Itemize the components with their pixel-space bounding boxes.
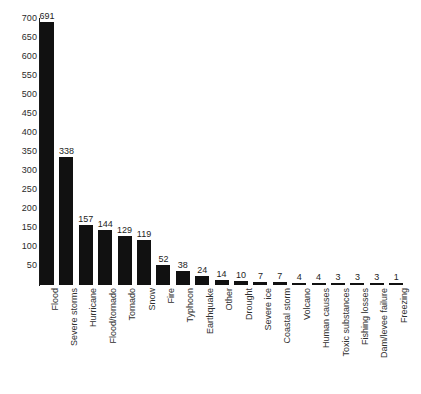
category-label: Snow (148, 288, 157, 311)
category-label: Typhoon (186, 288, 195, 323)
bar-value-label: 338 (59, 146, 74, 156)
category-label: Other (225, 288, 234, 311)
bar-group: 3 (350, 0, 364, 285)
bar-value-label: 1 (394, 272, 399, 282)
category-label: Tornado (128, 288, 137, 321)
bar-group: 129 (118, 0, 132, 285)
bar (156, 265, 170, 285)
bar-value-label: 3 (335, 272, 340, 282)
category-label: Hurricane (89, 288, 98, 327)
plot-area: 5010015020025030035040045050055060065070… (0, 0, 421, 394)
bar-group: 52 (156, 0, 170, 285)
bar-value-label: 24 (197, 265, 207, 275)
category-label-text: Earthquake (206, 288, 215, 334)
bar (350, 283, 364, 285)
category-label-text: Drought (245, 288, 254, 320)
bar-value-label: 3 (374, 272, 379, 282)
bar-value-label: 52 (158, 254, 168, 264)
category-label: Flood (51, 288, 60, 311)
bar (40, 22, 54, 285)
bar (370, 283, 384, 285)
bar (312, 283, 326, 285)
category-label-text: Freezing (400, 288, 409, 323)
bar (273, 282, 287, 285)
category-label-text: Severe storms (70, 288, 79, 346)
bar (176, 271, 190, 285)
bar-group: 157 (79, 0, 93, 285)
bar-value-label: 3 (355, 272, 360, 282)
category-label-text: Dam/levee failure (380, 288, 389, 358)
category-label-text: Volcano (303, 288, 312, 320)
category-label-text: Typhoon (186, 288, 195, 323)
bar-group: 7 (273, 0, 287, 285)
bar (331, 283, 345, 285)
bar-chart: 5010015020025030035040045050055060065070… (0, 0, 421, 394)
bar-value-label: 10 (236, 270, 246, 280)
bar (79, 225, 93, 285)
bar-value-label: 691 (39, 11, 54, 21)
bar (137, 240, 151, 285)
category-label-text: Flood/tornado (109, 288, 118, 344)
bar (59, 157, 73, 285)
category-label: Fishing losses (361, 288, 370, 345)
bar-value-label: 144 (98, 219, 113, 229)
category-label: Severe ice (264, 288, 273, 331)
category-label-text: Human causes (322, 288, 331, 348)
bar-group: 10 (234, 0, 248, 285)
bar-value-label: 129 (117, 225, 132, 235)
bar (195, 276, 209, 285)
bar (215, 280, 229, 285)
category-label: Flood/tornado (109, 288, 118, 344)
category-label: Severe storms (70, 288, 79, 346)
category-label: Toxic substances (342, 288, 351, 357)
bar (234, 281, 248, 285)
category-label: Volcano (303, 288, 312, 320)
bar-group: 691 (40, 0, 54, 285)
category-label-text: Toxic substances (342, 288, 351, 357)
bar-value-label: 119 (137, 229, 151, 239)
category-label: Coastal storm (283, 288, 292, 344)
bar-value-label: 14 (217, 269, 227, 279)
bar-value-label: 7 (277, 271, 282, 281)
bar (98, 230, 112, 285)
bar-group: 3 (370, 0, 384, 285)
bar-group: 3 (331, 0, 345, 285)
bar-group: 24 (195, 0, 209, 285)
bar-value-label: 7 (258, 271, 263, 281)
bar-value-label: 38 (178, 260, 188, 270)
category-label: Human causes (322, 288, 331, 348)
category-label-text: Fishing losses (361, 288, 370, 345)
category-label: Freezing (400, 288, 409, 323)
bar (292, 283, 306, 285)
bar-group: 14 (215, 0, 229, 285)
bar-group: 119 (137, 0, 151, 285)
category-label: Fire (167, 288, 176, 304)
x-axis-category-labels: FloodSevere stormsHurricaneFlood/tornado… (0, 286, 421, 394)
bar-group: 1 (389, 0, 403, 285)
category-label-text: Severe ice (264, 288, 273, 331)
bar-group: 4 (292, 0, 306, 285)
category-label-text: Snow (148, 288, 157, 311)
bar (253, 282, 267, 285)
category-label: Drought (245, 288, 254, 320)
category-label-text: Flood (51, 288, 60, 311)
bar-group: 38 (176, 0, 190, 285)
category-label-text: Other (225, 288, 234, 311)
bar-value-label: 4 (297, 272, 302, 282)
category-label: Dam/levee failure (380, 288, 389, 358)
category-label-text: Hurricane (89, 288, 98, 327)
bar-group: 338 (59, 0, 73, 285)
bar-value-label: 4 (316, 272, 321, 282)
bars-layer: 691338157144129119523824141077443331 (0, 0, 421, 285)
bar-group: 7 (253, 0, 267, 285)
category-label-text: Coastal storm (283, 288, 292, 344)
category-label-text: Fire (167, 288, 176, 304)
bar-value-label: 157 (78, 214, 93, 224)
bar-group: 4 (312, 0, 326, 285)
category-label-text: Tornado (128, 288, 137, 321)
bar (118, 236, 132, 285)
bar-group: 144 (98, 0, 112, 285)
category-label: Earthquake (206, 288, 215, 334)
bar (389, 283, 403, 285)
